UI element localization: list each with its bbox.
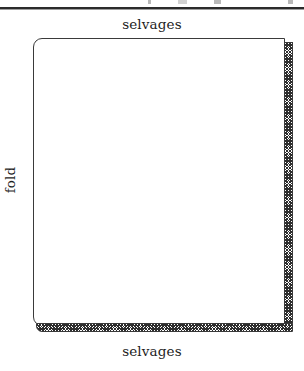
scan-artifact: [214, 0, 221, 4]
scan-artifact: [288, 0, 293, 4]
top-rule-divider: [0, 7, 304, 9]
folded-fabric-diagram: selvages fold selvages: [0, 0, 304, 371]
fabric-sheet: [33, 38, 285, 326]
label-selvages-top: selvages: [0, 18, 304, 32]
label-selvages-bottom: selvages: [0, 345, 304, 359]
selvage-strip-bottom: [36, 323, 293, 332]
scan-artifact: [178, 0, 187, 4]
selvage-strip-right: [284, 42, 293, 326]
scan-artifact: [148, 0, 151, 4]
label-fold: fold: [4, 158, 18, 202]
